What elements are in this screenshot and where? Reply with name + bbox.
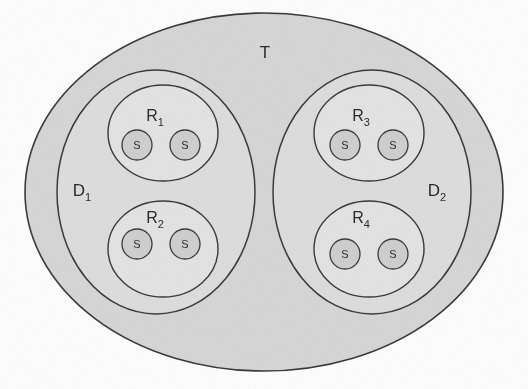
label-region-R1-base: R xyxy=(146,107,158,124)
label-atom-s: S xyxy=(389,139,396,151)
label-atom-s: S xyxy=(133,238,140,250)
label-domain-D2-subscript: 2 xyxy=(440,191,446,203)
label-region-R3-subscript: 3 xyxy=(364,116,370,128)
nested-set-diagram: T D1 D2 R1 R2 R3 R4 S S S S S S S xyxy=(0,0,528,389)
label-atom-s: S xyxy=(133,139,140,151)
label-domain-D1-subscript: 1 xyxy=(85,191,91,203)
label-region-R2-base: R xyxy=(146,209,158,226)
label-atom-s: S xyxy=(389,248,396,260)
diagram-canvas: T D1 D2 R1 R2 R3 R4 S S S S S S S xyxy=(0,0,528,389)
set-region-R3[interactable] xyxy=(314,85,424,181)
label-domain-D1-base: D xyxy=(73,181,85,200)
label-domain-D2-base: D xyxy=(428,181,440,200)
label-atom-s: S xyxy=(181,238,188,250)
label-region-R1-subscript: 1 xyxy=(158,116,164,128)
label-region-R3-base: R xyxy=(352,107,364,124)
label-atom-s: S xyxy=(181,139,188,151)
label-atom-s: S xyxy=(341,139,348,151)
label-atom-s: S xyxy=(341,248,348,260)
label-region-R4-subscript: 4 xyxy=(364,218,370,230)
label-universe-T: T xyxy=(260,43,270,62)
set-region-R1[interactable] xyxy=(108,85,218,181)
label-region-R2-subscript: 2 xyxy=(158,218,164,230)
label-region-R4-base: R xyxy=(352,209,364,226)
